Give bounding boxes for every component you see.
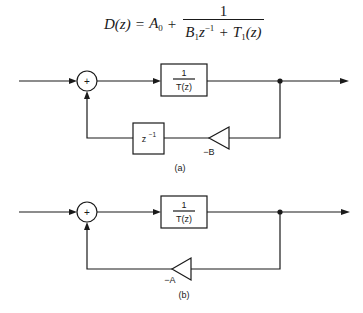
sum-symbol-b: + <box>84 207 90 218</box>
delay-label-a: z <box>142 134 147 144</box>
arrow-head-icon <box>153 78 161 84</box>
block-numerator-a: 1 <box>181 68 186 78</box>
feedback-line-a <box>229 81 280 138</box>
diagram-a: + 1 T(z) z −1 −B (a) <box>19 64 349 173</box>
arrow-head-icon <box>341 209 350 215</box>
block-denominator-b: T(z) <box>176 214 192 224</box>
arrow-head-icon <box>340 78 349 84</box>
arrow-head-icon <box>153 209 161 215</box>
gain-label-a: −B <box>203 147 214 157</box>
arrow-head-icon <box>69 78 77 84</box>
arrow-head-icon <box>69 209 77 215</box>
block-diagrams: + 1 T(z) z −1 −B (a) + 1 T(z) <box>0 0 363 313</box>
feedback-return-line-b <box>87 227 172 269</box>
arrow-head-icon <box>84 91 90 99</box>
block-denominator-a: T(z) <box>176 82 192 92</box>
delay-block-a <box>133 123 164 154</box>
gain-triangle-a <box>209 127 229 149</box>
caption-b: (b) <box>179 290 190 300</box>
block-numerator-b: 1 <box>181 200 186 210</box>
diagram-b: + 1 T(z) −A (b) <box>19 196 350 300</box>
arrow-head-icon <box>84 222 90 230</box>
sum-symbol-a: + <box>84 76 90 87</box>
caption-a: (a) <box>175 163 186 173</box>
feedback-return-line-a <box>87 96 133 138</box>
delay-sup-a: −1 <box>149 131 157 138</box>
gain-label-b: −A <box>164 275 175 285</box>
